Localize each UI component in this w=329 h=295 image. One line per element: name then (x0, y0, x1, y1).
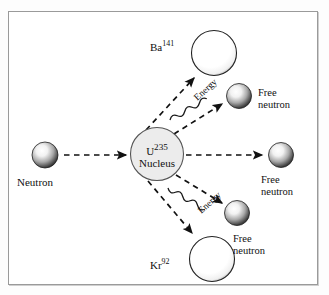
barium-symbol: Ba (150, 41, 162, 53)
nucleus-word: Nucleus (139, 157, 175, 169)
free-neutron-3-line1: Free (233, 233, 252, 244)
arrow-nucleus-to-free-neutron-1 (174, 104, 222, 134)
free-neutron-3-label: Free neutron (233, 233, 265, 257)
kr92-label: Kr92 (150, 259, 170, 271)
barium-mass-number: 141 (162, 39, 174, 48)
free-neutron-2-line1: Free (261, 174, 280, 185)
nucleus-mass-number: 235 (154, 142, 168, 152)
free-neutron-2-line2: neutron (261, 186, 293, 197)
free-neutron-2-label: Free neutron (261, 174, 293, 198)
energy-wave-top (169, 97, 208, 123)
kr92-sphere (190, 237, 235, 282)
free-neutron-1-line1: Free (258, 87, 277, 98)
ba141-label: Ba141 (150, 41, 174, 53)
nucleus-symbol: U (146, 145, 154, 157)
krypton-mass-number: 92 (162, 257, 170, 266)
free-neutron-3-sphere (225, 201, 250, 226)
ba141-sphere (192, 31, 237, 76)
u235-nucleus-label: U235 Nucleus (127, 142, 187, 170)
incoming-neutron-label: Neutron (17, 176, 53, 188)
free-neutron-1-label: Free neutron (258, 87, 290, 111)
free-neutron-1-line2: neutron (258, 99, 290, 110)
arrow-nucleus-to-kr92 (148, 181, 192, 233)
free-neutron-2-sphere (269, 143, 294, 168)
incoming-neutron-sphere (32, 142, 58, 168)
fission-diagram: U235 Nucleus Neutron Ba141 Kr92 Energy E… (0, 0, 329, 295)
arrow-nucleus-to-ba141 (146, 78, 194, 130)
free-neutron-3-line2: neutron (233, 245, 265, 256)
free-neutron-1-sphere (227, 84, 252, 109)
krypton-symbol: Kr (150, 259, 162, 271)
